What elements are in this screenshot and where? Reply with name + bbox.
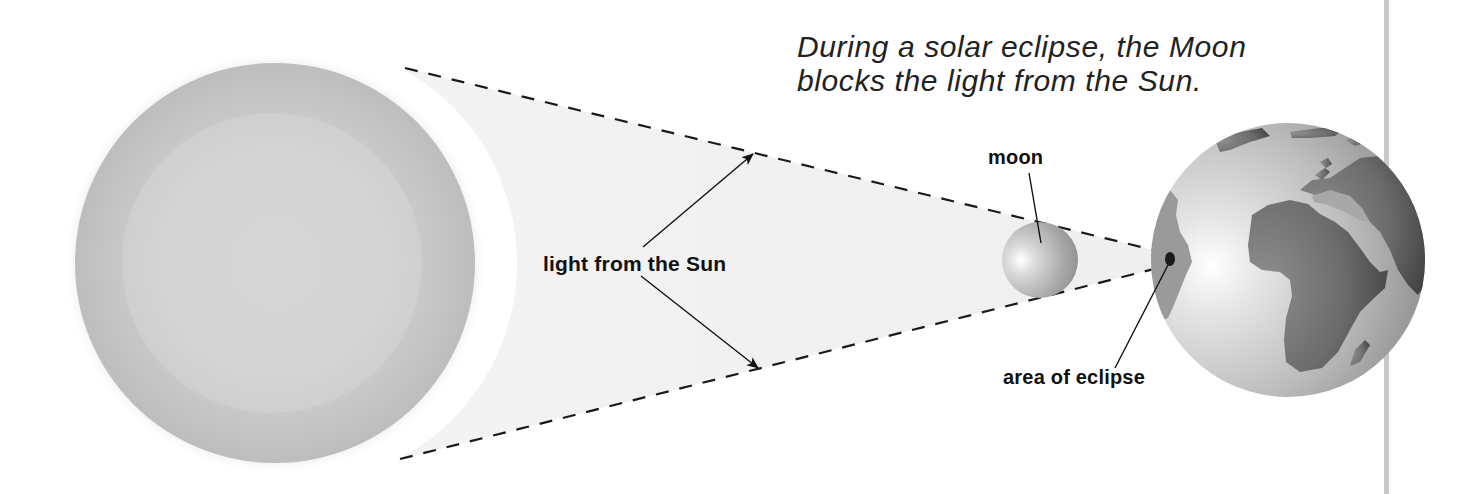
- caption-line-2: blocks the light from the Sun.: [797, 64, 1246, 98]
- diagram-canvas: [0, 0, 1479, 494]
- solar-eclipse-diagram: During a solar eclipse, the Moon blocks …: [0, 0, 1479, 494]
- eclipse-spot: [1165, 252, 1175, 266]
- eclipse-pointer-line: [1115, 265, 1168, 368]
- label-light-from-sun: light from the Sun: [543, 252, 726, 276]
- label-moon: moon: [988, 146, 1043, 169]
- caption-line-1: During a solar eclipse, the Moon: [797, 30, 1246, 64]
- caption: During a solar eclipse, the Moon blocks …: [797, 30, 1246, 98]
- sun-core-highlight: [122, 113, 422, 413]
- label-area-of-eclipse: area of eclipse: [1003, 366, 1145, 389]
